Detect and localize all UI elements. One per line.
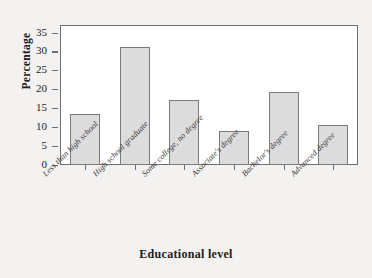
x-axis-tick-mark [333, 165, 334, 170]
x-axis-tick-mark [85, 165, 86, 170]
y-axis-tick-mark [52, 108, 58, 109]
x-axis-tick-mark [135, 165, 136, 170]
y-axis-tick-mark [52, 127, 58, 128]
y-axis-tick-label: 35 [36, 26, 47, 38]
y-axis-tick-label: 5 [42, 139, 48, 151]
x-axis-title: Educational level [0, 247, 372, 262]
plot-area [60, 25, 358, 165]
y-axis-tick-label: 20 [36, 82, 47, 94]
y-axis-tick-mark [52, 89, 58, 90]
x-axis-tick-mark [234, 165, 235, 170]
y-axis-tick-mark [52, 51, 58, 52]
y-axis-tick-label: 30 [36, 44, 47, 56]
x-axis-tick-mark [284, 165, 285, 170]
y-axis-title: Percentage [20, 1, 32, 121]
y-axis-tick-label: 25 [36, 63, 47, 75]
y-axis-tick-label: 15 [36, 101, 47, 113]
y-axis-tick-mark [52, 33, 58, 34]
y-axis-tick-mark [52, 146, 58, 147]
y-axis-tick-mark [52, 70, 58, 71]
bar-chart-figure: Percentage 05101520253035 Less than high… [0, 0, 372, 278]
y-axis-tick-label: 10 [36, 120, 47, 132]
x-axis-tick-mark [184, 165, 185, 170]
